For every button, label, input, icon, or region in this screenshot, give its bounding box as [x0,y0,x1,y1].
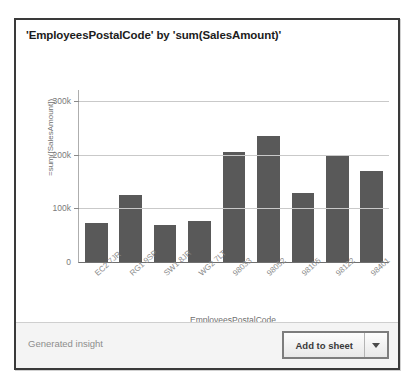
bar[interactable] [360,171,383,262]
bar-chart: =sum([SalesAmount]) 0100k200k300kEC2 7JR… [16,50,398,330]
bar[interactable] [85,223,108,262]
y-tick-label: 200k [53,150,71,160]
y-axis-title: =sum([SalesAmount]) [46,99,55,176]
y-tick-label: 0 [66,257,71,267]
gridline [79,155,389,156]
gridline [79,101,389,102]
insight-card: 'EmployeesPostalCode' by 'sum(SalesAmoun… [14,18,400,370]
plot-area: 0100k200k300kEC2 7JRRG1 9SPSW1 8JRWG2 7L… [78,90,389,263]
y-tick-label: 300k [53,96,71,106]
bar-series [79,90,389,262]
add-to-sheet-dropdown-button[interactable] [365,333,387,357]
bar[interactable] [119,195,142,262]
y-tick-label: 100k [53,203,71,213]
y-tick-mark [74,101,79,102]
generated-insight-label: Generated insight [28,338,103,349]
screenshot-root: 'EmployeesPostalCode' by 'sum(SalesAmoun… [0,0,416,390]
card-footer: Generated insight Add to sheet [16,322,398,368]
chevron-down-icon [372,343,380,348]
page-title: 'EmployeesPostalCode' by 'sum(SalesAmoun… [26,29,281,41]
y-tick-mark [74,155,79,156]
bar[interactable] [292,193,315,262]
gridline [79,208,389,209]
add-to-sheet-button[interactable]: Add to sheet [284,333,365,357]
bar[interactable] [223,152,246,262]
add-to-sheet-group[interactable]: Add to sheet [282,331,389,359]
y-tick-mark [74,208,79,209]
